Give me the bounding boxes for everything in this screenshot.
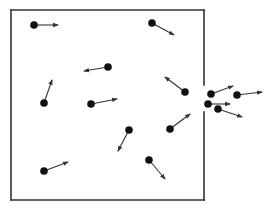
particle bbox=[145, 156, 165, 179]
particle-dot-icon bbox=[87, 100, 95, 108]
container-box bbox=[11, 10, 204, 200]
particle-dot-icon bbox=[30, 21, 38, 29]
particle bbox=[118, 126, 133, 151]
particle-dot-icon bbox=[104, 63, 112, 71]
particle bbox=[165, 77, 189, 96]
particle bbox=[148, 19, 174, 35]
particle-dot-icon bbox=[214, 105, 222, 113]
particle-dot-icon bbox=[40, 167, 48, 175]
particle-dot-icon bbox=[148, 19, 156, 27]
particle-dot-icon bbox=[166, 125, 174, 133]
particle bbox=[166, 114, 190, 133]
particle bbox=[87, 99, 117, 108]
velocity-arrow-icon bbox=[44, 162, 68, 171]
particle-dot-icon bbox=[40, 99, 48, 107]
particle bbox=[233, 91, 262, 99]
particle-dot-icon bbox=[125, 126, 133, 134]
particle bbox=[207, 86, 233, 98]
particle-dot-icon bbox=[207, 90, 215, 98]
particle-dot-icon bbox=[233, 91, 241, 99]
particle-dot-icon bbox=[145, 156, 153, 164]
particle bbox=[30, 21, 58, 29]
particle-dot-icon bbox=[181, 88, 189, 96]
particles-group bbox=[30, 19, 262, 179]
particle bbox=[40, 80, 52, 107]
particle bbox=[214, 105, 242, 117]
particle bbox=[40, 162, 68, 175]
effusion-diagram bbox=[0, 0, 273, 211]
velocity-arrow-icon bbox=[91, 99, 117, 104]
particle bbox=[84, 63, 112, 71]
particle-dot-icon bbox=[204, 100, 212, 108]
